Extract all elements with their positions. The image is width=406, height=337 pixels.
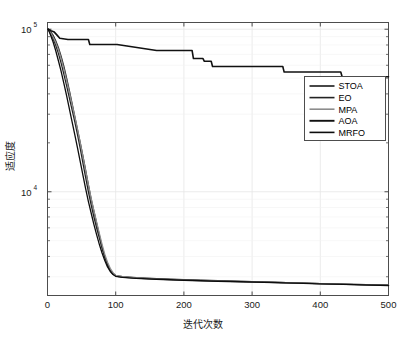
svg-text:400: 400: [312, 299, 328, 310]
chart-legend: STOAEOMPAAOAMRFO: [305, 77, 386, 141]
axis-ticks: [48, 23, 389, 296]
svg-text:100: 100: [108, 299, 124, 310]
svg-text:200: 200: [176, 299, 192, 310]
svg-text:STOA: STOA: [339, 81, 363, 91]
svg-text:500: 500: [381, 299, 397, 310]
svg-text:MRFO: MRFO: [339, 128, 366, 138]
svg-text:5: 5: [34, 21, 38, 28]
axis-tick-labels: 0100200300400500104105: [21, 21, 397, 309]
svg-text:0: 0: [45, 299, 50, 310]
axes-frame: [48, 23, 389, 296]
svg-text:4: 4: [34, 184, 38, 191]
data-series-lines: [48, 29, 388, 285]
svg-text:10: 10: [21, 24, 32, 35]
svg-text:300: 300: [244, 299, 260, 310]
svg-text:MPA: MPA: [339, 105, 358, 115]
svg-text:AOA: AOA: [339, 116, 358, 126]
convergence-line-chart: 0100200300400500104105 STOAEOMPAAOAMRFO: [0, 0, 406, 337]
x-axis-label: 迭代次数: [0, 316, 406, 331]
y-axis-label: 适应度: [2, 126, 17, 186]
svg-text:EO: EO: [339, 93, 352, 103]
figure-canvas: 0100200300400500104105 STOAEOMPAAOAMRFO …: [0, 0, 406, 337]
grid-lines: [48, 23, 389, 296]
svg-text:10: 10: [21, 187, 32, 198]
